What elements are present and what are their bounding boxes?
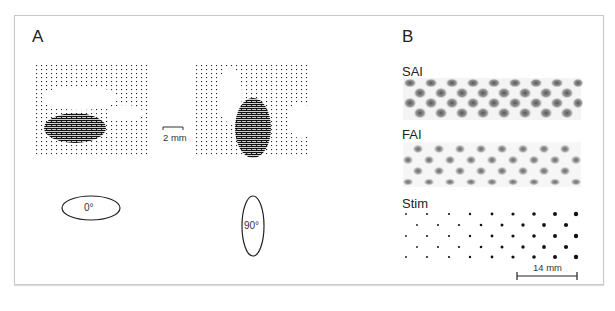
scale-bar-14mm-label: 14 mm	[533, 262, 562, 273]
figure-graphics	[0, 0, 615, 311]
fai-response-pattern	[402, 142, 582, 187]
fai-label: FAI	[402, 127, 422, 142]
sai-label: SAI	[402, 64, 423, 79]
stim-label: Stim	[402, 196, 428, 211]
panel-b-label: B	[402, 27, 413, 47]
scale-bar-2mm	[163, 127, 183, 130]
stim-dot-grid	[405, 212, 578, 259]
raster-90-degree	[193, 63, 312, 158]
scale-bar-14mm	[517, 272, 577, 280]
orientation-0-label: 0°	[84, 202, 94, 213]
raster-0-degree	[34, 63, 149, 155]
scale-bar-2mm-label: 2 mm	[163, 132, 187, 143]
orientation-90-label: 90°	[244, 220, 259, 231]
sai-response-pattern	[403, 78, 584, 120]
